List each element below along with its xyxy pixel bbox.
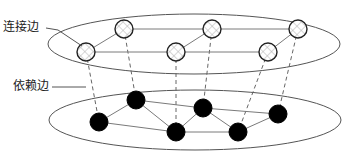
dependency-edge [203, 29, 212, 108]
bottom-connection-edge [203, 108, 278, 114]
top-layer-node [115, 20, 133, 38]
top-layer-node [167, 43, 185, 61]
top-layer-node [259, 43, 277, 61]
bottom-connection-edge [99, 122, 176, 132]
dependency-edge [124, 29, 136, 100]
bottom-layer-node [127, 91, 145, 109]
top-layer-node [289, 20, 307, 38]
bottom-layer-node [229, 123, 247, 141]
dependency-edge-label: 依赖边 [13, 78, 49, 93]
bottom-layer-connection-edges [99, 100, 278, 132]
two-layer-network-diagram: 连接边 依赖边 [0, 0, 352, 154]
bottom-connection-edge [136, 100, 203, 108]
bottom-layer-nodes [90, 91, 287, 141]
connection-edge-label: 连接边 [3, 19, 39, 34]
top-layer-nodes [77, 20, 307, 61]
top-layer-node [203, 20, 221, 38]
bottom-layer-node [167, 123, 185, 141]
dependency-edge [86, 52, 99, 122]
bottom-layer-node [194, 99, 212, 117]
top-layer-node [77, 43, 95, 61]
bottom-layer-node [269, 105, 287, 123]
bottom-layer-node [90, 113, 108, 131]
